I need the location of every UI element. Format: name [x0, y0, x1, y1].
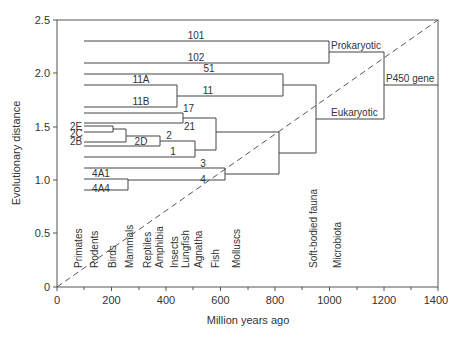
- prokaryotic-label: Prokaryotic: [331, 40, 381, 51]
- node-2: 2: [166, 130, 172, 141]
- leaf-11A: 11A: [132, 74, 149, 85]
- leaf-51: 51: [203, 63, 215, 74]
- taxon-birds: Birds: [107, 245, 118, 268]
- leaf-3: 3: [200, 158, 206, 169]
- taxon-fish: Fish: [210, 249, 221, 268]
- node-4: 4: [200, 174, 206, 185]
- x-tick-labels: 0 200 400 600 800 1000 1200 1400: [54, 294, 448, 306]
- taxon-lungfish: Lungfish: [180, 230, 191, 268]
- leaf-4A4: 4A4: [92, 183, 110, 194]
- svg-text:0.5: 0.5: [35, 227, 50, 239]
- taxon-reptiles: Reptiles: [142, 232, 153, 268]
- taxon-insects: Insects: [169, 236, 180, 268]
- branch-labels: 101 102 51 11A 11 11B 17 21 2E 2C 2B 2 2…: [70, 30, 435, 194]
- svg-text:1.0: 1.0: [35, 174, 50, 186]
- svg-text:1.5: 1.5: [35, 121, 50, 133]
- svg-text:0: 0: [44, 281, 50, 293]
- svg-text:2.0: 2.0: [35, 67, 50, 79]
- p450-gene-label: P450 gene: [386, 73, 435, 84]
- leaf-2B: 2B: [70, 136, 83, 147]
- taxon-agnatha: Agnatha: [193, 230, 204, 268]
- svg-text:800: 800: [266, 294, 284, 306]
- x-ticks: [57, 287, 438, 291]
- eukaryotic-label: Eukaryotic: [331, 107, 378, 118]
- taxon-molluscs: Molluscs: [231, 229, 242, 268]
- taxon-rodents: Rodents: [89, 231, 100, 268]
- dendrogram-chart: 2.5 2.0 1.5 1.0 0.5 0 0 200 400 600 800 …: [0, 0, 464, 339]
- svg-text:0: 0: [54, 294, 60, 306]
- x-axis-label: Million years ago: [207, 314, 290, 326]
- svg-text:2.5: 2.5: [35, 14, 50, 26]
- svg-text:200: 200: [102, 294, 120, 306]
- taxa-labels: Primates Rodents Birds Mammals Reptiles …: [73, 189, 343, 268]
- leaf-1: 1: [170, 146, 176, 157]
- svg-text:1000: 1000: [317, 294, 341, 306]
- y-axis-label: Evolutionary distance: [10, 101, 22, 206]
- svg-text:400: 400: [157, 294, 175, 306]
- leaf-21: 21: [184, 121, 196, 132]
- svg-text:1200: 1200: [372, 294, 396, 306]
- leaf-102: 102: [188, 52, 205, 63]
- tree-branches: [84, 41, 438, 190]
- svg-text:600: 600: [211, 294, 229, 306]
- taxon-amphibia: Amphibia: [154, 226, 165, 268]
- taxon-soft-bodied-fauna: Soft-bodied fauna: [308, 189, 319, 268]
- leaf-11B: 11B: [132, 96, 149, 107]
- y-tick-labels: 2.5 2.0 1.5 1.0 0.5 0: [35, 14, 50, 293]
- svg-text:1400: 1400: [424, 294, 448, 306]
- leaf-2D: 2D: [135, 136, 148, 147]
- taxon-primates: Primates: [73, 229, 84, 268]
- leaf-17: 17: [183, 103, 195, 114]
- leaf-101: 101: [188, 30, 205, 41]
- node-11: 11: [203, 85, 214, 96]
- y-ticks: [53, 20, 57, 287]
- taxon-mammals: Mammals: [124, 225, 135, 268]
- taxon-microbiota: Microbiota: [332, 221, 343, 268]
- leaf-4A1: 4A1: [92, 168, 110, 179]
